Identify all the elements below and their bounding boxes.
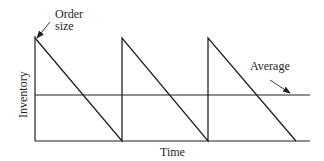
chart-svg: Order size Average Time Inventory	[0, 0, 324, 161]
average-label: Average	[250, 59, 290, 73]
y-axis-label: Inventory	[16, 71, 30, 118]
inventory-sawtooth-chart: Order size Average Time Inventory	[0, 0, 324, 161]
inventory-sawtooth-line	[35, 38, 296, 141]
average-arrow	[270, 80, 290, 93]
order-size-arrow	[37, 22, 50, 38]
x-axis-label: Time	[160, 145, 185, 159]
order-size-label-line2: size	[55, 19, 74, 33]
